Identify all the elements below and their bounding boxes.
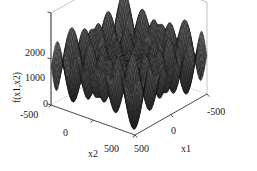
x1-tick-500: 500 [134,144,149,154]
x2-tick-minus500: -500 [20,110,38,120]
z-tick-2000: 2000 [25,48,45,58]
plot-canvas [0,0,257,171]
surface-plot-figure: f(x1,x2) 2000 1000 0 -500 0 500 500 0 -5… [0,0,257,171]
x2-axis-title: x2 [88,149,98,159]
z-tick-1000: 1000 [25,73,45,83]
z-axis-title: f(x1,x2) [2,16,12,47]
x1-axis-title: x1 [181,144,191,154]
x2-tick-0: 0 [63,128,68,138]
z-tick-0: 0 [43,99,48,109]
x1-tick-0: 0 [171,126,176,136]
x1-tick-minus500: -500 [207,107,225,117]
x2-tick-500: 500 [104,144,119,154]
